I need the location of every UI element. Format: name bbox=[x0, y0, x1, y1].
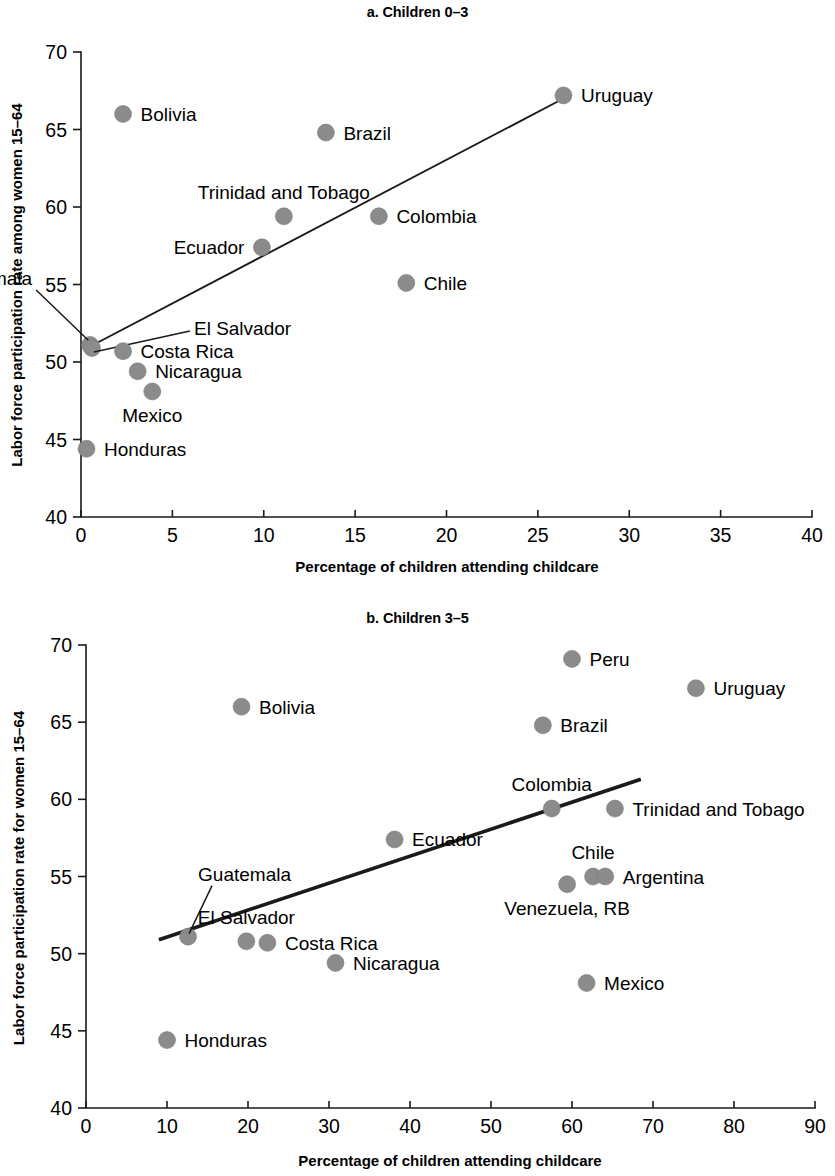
x-tick-label: 25 bbox=[527, 524, 549, 546]
point-label: Mexico bbox=[122, 405, 182, 426]
point-label: Chile bbox=[424, 273, 467, 294]
point-marker bbox=[606, 800, 623, 817]
data-point[interactable]: Brazil bbox=[317, 123, 391, 144]
point-marker bbox=[180, 928, 197, 945]
point-marker bbox=[115, 106, 132, 123]
y-tick-label: 65 bbox=[50, 711, 72, 733]
point-label: Uruguay bbox=[713, 678, 785, 699]
data-point[interactable]: Brazil bbox=[534, 715, 608, 736]
point-marker bbox=[129, 363, 146, 380]
y-tick-label: 65 bbox=[45, 119, 67, 141]
data-point[interactable]: Honduras bbox=[78, 439, 186, 460]
y-tick-label: 60 bbox=[50, 788, 72, 810]
y-tick-label: 55 bbox=[50, 866, 72, 888]
y-tick-label: 45 bbox=[45, 429, 67, 451]
y-tick-label: 40 bbox=[45, 506, 67, 528]
x-tick-label: 50 bbox=[480, 1115, 502, 1137]
point-marker bbox=[327, 954, 344, 971]
data-point[interactable]: Honduras bbox=[159, 1030, 267, 1051]
point-marker bbox=[564, 650, 581, 667]
point-marker bbox=[83, 340, 100, 357]
point-label: Venezuela, RB bbox=[504, 898, 630, 919]
x-tick-label: 5 bbox=[167, 524, 178, 546]
point-label: Honduras bbox=[185, 1030, 267, 1051]
x-tick-label: 60 bbox=[561, 1115, 583, 1137]
data-point[interactable]: Chile bbox=[398, 273, 467, 294]
point-label: Argentina bbox=[623, 867, 705, 888]
y-tick-label: 55 bbox=[45, 274, 67, 296]
data-point[interactable]: Mexico bbox=[578, 973, 664, 994]
data-point[interactable]: Colombia bbox=[512, 774, 593, 817]
y-tick-label: 70 bbox=[45, 41, 67, 63]
x-tick-label: 35 bbox=[710, 524, 732, 546]
x-axis-title: Percentage of children attending childca… bbox=[298, 1152, 601, 1169]
data-point[interactable]: Nicaragua bbox=[129, 361, 242, 382]
y-axis-title: Labor force participation rate among wom… bbox=[8, 103, 25, 467]
x-tick-label: 40 bbox=[399, 1115, 421, 1137]
x-tick-label: 30 bbox=[618, 524, 640, 546]
point-marker bbox=[559, 876, 576, 893]
point-label: Ecuador bbox=[174, 237, 245, 258]
leader-line bbox=[36, 290, 91, 343]
data-point[interactable]: Trinidad and Tobago bbox=[198, 182, 370, 225]
x-tick-label: 10 bbox=[156, 1115, 178, 1137]
point-marker bbox=[398, 274, 415, 291]
y-tick-label: 50 bbox=[50, 943, 72, 965]
point-marker bbox=[275, 208, 292, 225]
point-label: Ecuador bbox=[412, 829, 483, 850]
point-label: Uruguay bbox=[581, 85, 653, 106]
point-label: Bolivia bbox=[259, 697, 315, 718]
data-point[interactable]: Ecuador bbox=[174, 237, 271, 258]
x-tick-label: 0 bbox=[81, 1115, 92, 1137]
point-marker bbox=[386, 831, 403, 848]
x-tick-label: 80 bbox=[723, 1115, 745, 1137]
point-label: Peru bbox=[590, 649, 630, 670]
data-point[interactable]: Bolivia bbox=[115, 104, 197, 125]
point-marker bbox=[238, 933, 255, 950]
x-tick-label: 10 bbox=[253, 524, 275, 546]
data-point[interactable]: Costa Rica bbox=[259, 933, 378, 954]
point-label: El Salvador bbox=[194, 318, 292, 339]
x-tick-label: 20 bbox=[237, 1115, 259, 1137]
point-label: Honduras bbox=[104, 439, 186, 460]
x-axis-title: Percentage of children attending childca… bbox=[295, 558, 598, 575]
point-marker bbox=[534, 717, 551, 734]
y-tick-label: 40 bbox=[50, 1097, 72, 1119]
point-label: Trinidad and Tobago bbox=[632, 799, 804, 820]
y-axis-title: Labor force participation rate for women… bbox=[10, 710, 27, 1045]
data-point[interactable]: Peru bbox=[564, 649, 630, 670]
data-point[interactable]: Uruguay bbox=[555, 85, 653, 106]
y-tick-label: 45 bbox=[50, 1020, 72, 1042]
data-point[interactable]: Argentina bbox=[597, 867, 705, 888]
chart-panel-children-3-5: b. Children 3–5 010203040506070809040455… bbox=[0, 600, 835, 1176]
point-label: Costa Rica bbox=[141, 341, 234, 362]
point-marker bbox=[253, 239, 270, 256]
point-label: Guatemala bbox=[198, 864, 291, 885]
data-point[interactable]: Trinidad and Tobago bbox=[606, 799, 804, 820]
data-point[interactable]: Ecuador bbox=[386, 829, 483, 850]
data-point[interactable]: Colombia bbox=[370, 206, 477, 227]
data-point[interactable]: Mexico bbox=[122, 383, 182, 426]
scatter-plot-children-3-5: 010203040506070809040455055606570PeruUru… bbox=[0, 600, 835, 1176]
y-tick-label: 50 bbox=[45, 351, 67, 373]
point-label: El Salvador bbox=[198, 907, 296, 928]
point-marker bbox=[115, 343, 132, 360]
point-label: Costa Rica bbox=[285, 933, 378, 954]
point-marker bbox=[687, 680, 704, 697]
point-marker bbox=[78, 440, 95, 457]
data-point[interactable]: Bolivia bbox=[233, 697, 315, 718]
x-tick-label: 0 bbox=[76, 524, 87, 546]
point-label: Mexico bbox=[604, 973, 664, 994]
data-point[interactable]: Guatemala bbox=[180, 864, 292, 946]
point-label: Nicaragua bbox=[353, 953, 440, 974]
data-point[interactable]: Uruguay bbox=[687, 678, 785, 699]
point-label: Bolivia bbox=[141, 104, 197, 125]
x-tick-label: 30 bbox=[318, 1115, 340, 1137]
chart-panel-children-0-3: a. Children 0–3 051015202530354040455055… bbox=[0, 0, 835, 600]
x-tick-label: 70 bbox=[642, 1115, 664, 1137]
data-point[interactable]: Nicaragua bbox=[327, 953, 440, 974]
point-marker bbox=[543, 800, 560, 817]
data-point[interactable]: El Salvador bbox=[198, 907, 296, 950]
point-marker bbox=[597, 868, 614, 885]
x-tick-label: 15 bbox=[344, 524, 366, 546]
